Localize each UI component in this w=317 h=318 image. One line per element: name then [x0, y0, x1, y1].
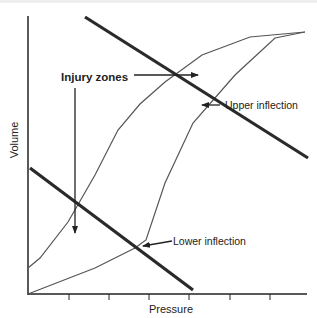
injury-zones-label: Injury zones [61, 71, 128, 83]
y-axis-label: Volume [8, 122, 20, 159]
pressure-volume-diagram: Injury zones Upper inflection Lower infl… [0, 0, 317, 318]
upper-inflection-label: Upper inflection [225, 99, 298, 111]
lower-injury-line [30, 168, 193, 290]
lower-inflection-arrow [143, 241, 172, 246]
lower-inflection-label: Lower inflection [173, 235, 246, 247]
x-axis-label: Pressure [149, 303, 193, 315]
x-axis-ticks [69, 294, 270, 300]
